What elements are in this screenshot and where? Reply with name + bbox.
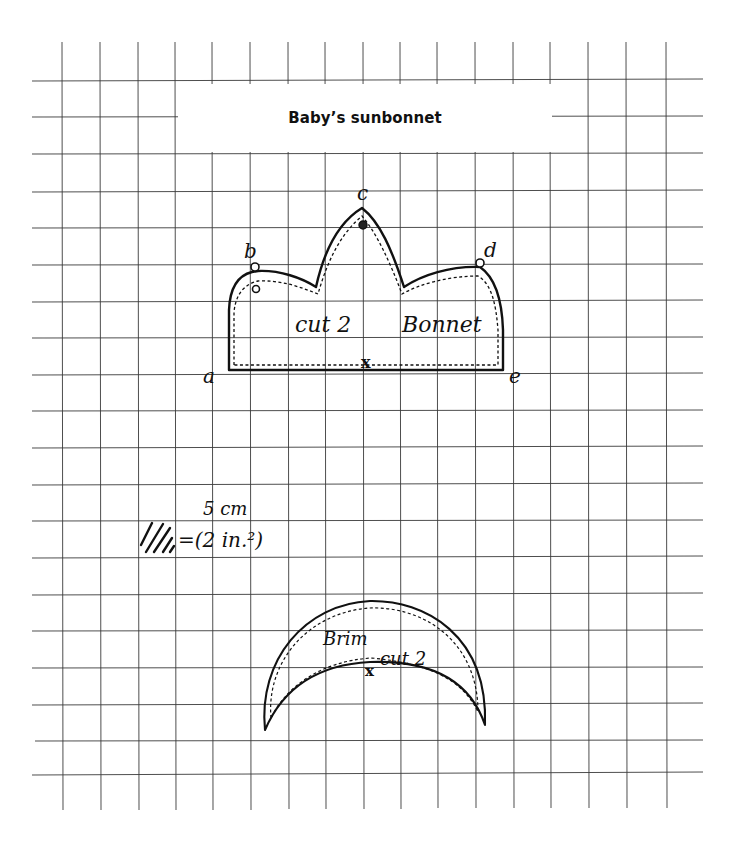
bonnet-cut-line	[229, 208, 503, 370]
scale-hatch-square	[141, 523, 174, 552]
brim-cut-label: cut 2	[380, 650, 426, 668]
point-b-marker	[251, 263, 259, 271]
point-label-b: b	[244, 241, 257, 261]
page-title: Baby’s sunbonnet	[288, 109, 442, 127]
bonnet-name-label: Bonnet	[402, 314, 482, 336]
scale-label-in: =(2 in.²)	[178, 530, 263, 550]
point-label-c: c	[357, 183, 368, 203]
title-banner: Baby’s sunbonnet	[178, 84, 552, 152]
point-d-marker	[476, 259, 484, 267]
bonnet-pattern-piece	[229, 208, 503, 370]
bonnet-center-mark: x	[361, 355, 371, 371]
brim-pattern-piece	[264, 601, 485, 730]
point-label-e: e	[509, 366, 521, 386]
grid-lines	[32, 42, 703, 810]
brim-name-label: Brim	[323, 630, 368, 648]
brim-center-mark: x	[365, 664, 374, 679]
brim-seam-line	[271, 608, 478, 718]
point-label-d: d	[484, 240, 497, 260]
bonnet-seam-line	[234, 216, 498, 365]
dart-mark-c	[359, 221, 367, 229]
dart-mark-b	[253, 286, 260, 293]
bonnet-cut-label: cut 2	[295, 314, 351, 336]
brim-cut-line	[264, 601, 485, 730]
point-label-a: a	[203, 366, 215, 386]
scale-label-cm: 5 cm	[203, 500, 247, 518]
